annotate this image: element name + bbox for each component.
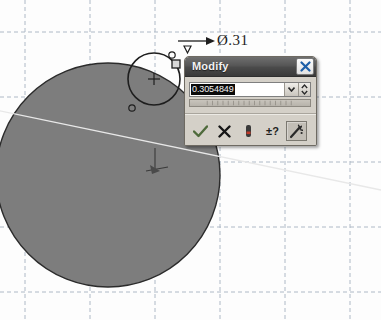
measure-button[interactable]	[238, 121, 259, 141]
value-combobox[interactable]: 0.3054849	[189, 82, 311, 97]
selected-point-handle[interactable]	[172, 60, 180, 68]
checkmark-icon	[193, 125, 208, 138]
sketch-canvas[interactable]: Ø.31	[0, 0, 381, 320]
dimension-label[interactable]: Ø.31	[217, 32, 249, 49]
value-input-text: 0.3054849	[191, 84, 235, 95]
spinner-button[interactable]	[298, 83, 310, 96]
measure-icon	[244, 124, 253, 139]
close-button[interactable]	[296, 58, 314, 75]
value-input[interactable]: 0.3054849	[190, 83, 284, 96]
dialog-toolbar: ±?	[187, 119, 317, 143]
dimension-leader[interactable]	[178, 37, 215, 45]
sketch-graphics	[0, 0, 381, 320]
dialog-titlebar[interactable]: Modify	[185, 57, 316, 77]
magic-wand-icon	[289, 124, 304, 139]
slider-ticks-icon	[190, 100, 310, 106]
coincident-constraint-glyph[interactable]	[169, 52, 175, 58]
spinner-updown-icon	[301, 84, 308, 95]
perpendicular-constraint-glyph[interactable]	[184, 46, 191, 53]
dialog-separator	[185, 113, 316, 115]
cancel-button[interactable]	[214, 121, 235, 141]
close-icon	[300, 61, 311, 72]
tolerance-button[interactable]: ±?	[262, 121, 283, 141]
x-mark-icon	[218, 125, 231, 138]
tolerance-label: ±?	[266, 125, 279, 137]
chevron-down-icon	[288, 87, 295, 92]
dialog-body: 0.3054849	[185, 77, 316, 145]
dialog-title: Modify	[192, 59, 229, 74]
edit-dimension-button[interactable]	[286, 121, 307, 141]
accept-button[interactable]	[190, 121, 211, 141]
modify-dialog[interactable]: Modify 0.3054849	[184, 56, 317, 146]
value-slider[interactable]	[189, 99, 311, 107]
screen: Ø.31 Modify 0.3054849	[0, 0, 381, 320]
dropdown-button[interactable]	[284, 83, 298, 96]
